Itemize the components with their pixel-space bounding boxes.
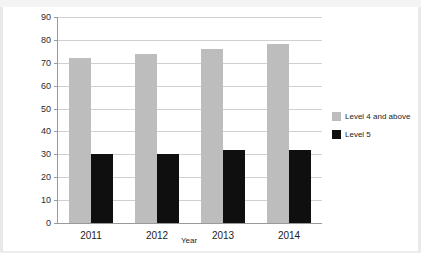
x-axis-title: Year <box>57 236 321 245</box>
y-axis-tick-label: 80 <box>41 35 51 45</box>
plot-area: 0102030405060708090 2011201220132014 <box>57 17 322 224</box>
legend-swatch-icon <box>332 112 341 121</box>
y-axis-tick-label: 0 <box>46 218 51 228</box>
y-axis-tick-label: 60 <box>41 81 51 91</box>
y-axis-tick-mark <box>54 223 58 224</box>
y-axis-tick-label: 10 <box>41 195 51 205</box>
y-axis-tick-label: 70 <box>41 58 51 68</box>
y-axis-tick-label: 40 <box>41 126 51 136</box>
y-axis-tick-label: 50 <box>41 104 51 114</box>
y-axis-tick-label: 90 <box>41 12 51 22</box>
legend-item[interactable]: Level 4 and above <box>332 112 420 121</box>
y-axis-tick-label: 30 <box>41 149 51 159</box>
legend-item-label: Level 4 and above <box>345 112 410 121</box>
legend-swatch-icon <box>332 130 341 139</box>
legend-item[interactable]: Level 5 <box>332 130 420 139</box>
legend-item-label: Level 5 <box>345 130 371 139</box>
scanned-page: Percentage of pupils 0102030405060708090… <box>0 0 421 253</box>
x-axis-tick-labels: 2011201220132014 <box>58 17 322 223</box>
bar-chart: Percentage of pupils 0102030405060708090… <box>0 0 421 253</box>
y-axis-tick-label: 20 <box>41 172 51 182</box>
chart-legend: Level 4 and aboveLevel 5 <box>332 112 420 148</box>
